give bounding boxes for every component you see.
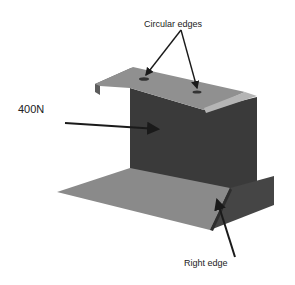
- bracket-diagram: [0, 0, 295, 285]
- circular-edge-2: [193, 90, 202, 93]
- circular-edges-label: Circular edges: [144, 19, 202, 29]
- right-edge-label: Right edge: [184, 258, 228, 268]
- arrow-circular-edge-1: [146, 30, 181, 75]
- circular-edge-1: [139, 77, 149, 81]
- force-label: 400N: [18, 103, 44, 115]
